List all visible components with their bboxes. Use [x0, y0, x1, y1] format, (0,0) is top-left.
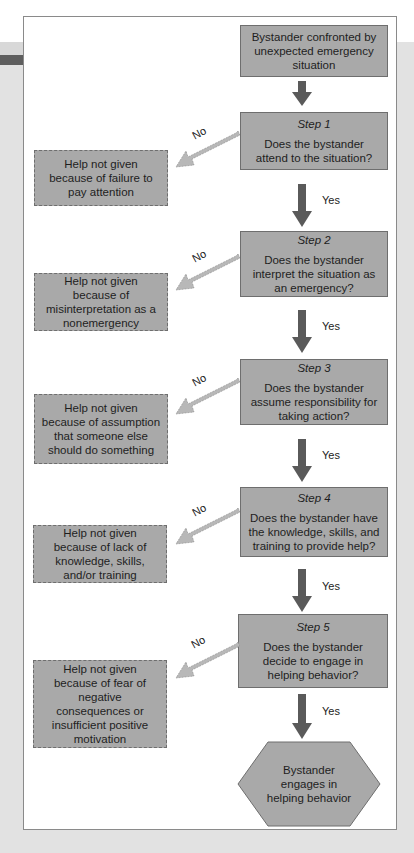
- arrow-down-icon: [292, 184, 312, 228]
- step-1-question: Does the bystander attend to the situati…: [247, 137, 381, 165]
- step-3-no-outcome: Help not given because of assumption tha…: [34, 394, 168, 464]
- no-arrow-icon: [174, 252, 240, 294]
- page-tab-light: [0, 42, 24, 55]
- arrow-down-icon: [292, 569, 312, 613]
- step-5-label: Step 5: [296, 620, 329, 634]
- step-4-no-outcome: Help not given because of lack of knowle…: [33, 525, 167, 583]
- start-text: Bystander confronted by unexpected emerg…: [247, 30, 381, 72]
- step-2-no-outcome-text: Help not given because of misinterpretat…: [41, 274, 161, 330]
- arrow-down-icon: [292, 439, 312, 483]
- step-4-yes-label: Yes: [322, 580, 340, 592]
- flowchart-frame: Bystander confronted by unexpected emerg…: [23, 16, 397, 830]
- step-1-label: Step 1: [297, 117, 330, 131]
- step-2-no-outcome: Help not given because of misinterpretat…: [34, 273, 168, 331]
- no-arrow-icon: [174, 129, 240, 171]
- step-3-box: Step 3 Does the bystander assume respons…: [240, 359, 388, 425]
- step-2-yes-label: Yes: [322, 320, 340, 332]
- step-5-no-outcome: Help not given because of fear of negati…: [33, 660, 167, 748]
- step-5-yes-label: Yes: [322, 705, 340, 717]
- step-3-no-outcome-text: Help not given because of assumption tha…: [41, 401, 161, 457]
- arrow-down-icon: [292, 694, 312, 740]
- no-arrow-icon: [174, 640, 240, 682]
- step-5-question: Does the bystander decide to engage in h…: [245, 640, 381, 682]
- step-4-question: Does the bystander have the knowledge, s…: [247, 511, 381, 553]
- step-4-label: Step 4: [297, 491, 330, 505]
- step-5-box: Step 5 Does the bystander decide to enga…: [238, 614, 388, 688]
- step-3-yes-label: Yes: [322, 449, 340, 461]
- page: Bystander confronted by unexpected emerg…: [0, 0, 414, 853]
- step-4-box: Step 4 Does the bystander have the knowl…: [240, 487, 388, 557]
- start-box: Bystander confronted by unexpected emerg…: [240, 25, 388, 77]
- arrow-down-icon: [292, 310, 312, 354]
- step-1-no-outcome: Help not given because of failure to pay…: [34, 150, 168, 206]
- step-1-no-outcome-text: Help not given because of failure to pay…: [41, 157, 161, 199]
- step-4-no-outcome-text: Help not given because of lack of knowle…: [40, 526, 160, 582]
- step-5-no-outcome-text: Help not given because of fear of negati…: [40, 662, 160, 746]
- step-1-box: Step 1 Does the bystander attend to the …: [240, 112, 388, 170]
- end-text-label: Bystander engages in helping behavior: [261, 763, 357, 805]
- no-arrow-icon: [174, 506, 240, 548]
- step-1-yes-label: Yes: [322, 194, 340, 206]
- step-2-question: Does the bystander interpret the situati…: [247, 253, 381, 295]
- no-arrow-icon: [174, 376, 240, 418]
- step-2-label: Step 2: [297, 233, 330, 247]
- page-tab-dark: [0, 55, 24, 65]
- step-2-box: Step 2 Does the bystander interpret the …: [240, 231, 388, 297]
- end-hexagon: Bystander engages in helping behavior: [237, 741, 381, 827]
- step-3-question: Does the bystander assume responsibility…: [247, 381, 381, 423]
- end-text: Bystander engages in helping behavior: [237, 741, 381, 827]
- step-3-label: Step 3: [297, 361, 330, 375]
- arrow-down-icon: [292, 81, 312, 107]
